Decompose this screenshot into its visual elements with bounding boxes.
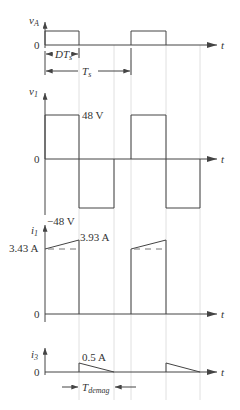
duty-label: DTs [54,48,72,62]
v1-high-label: 48 V [82,109,104,121]
plot-v1: v1 0 t 48 V −48 V [29,85,225,227]
demag-label: Tdemag [82,381,109,395]
v1-waveform [45,115,200,208]
i3-zero-label: 0 [34,366,40,378]
plot-i3: i3 0 t 0.5 A Tdemag [31,348,225,395]
i3-waveform [79,363,200,372]
plot-vA: vA 0 t DTs Ts [29,14,225,79]
timing-diagram: vA 0 t DTs Ts v1 0 t 48 V −48 V [0,0,240,410]
period-label: Ts [82,65,91,79]
vA-waveform [45,31,166,45]
vA-zero-label: 0 [34,39,40,51]
v1-ylabel: v1 [29,85,38,99]
i1-peak-label: 3.93 A [80,231,109,243]
i1-start-label: 3.43 A [9,242,38,254]
v1-t-label: t [221,153,225,165]
plot-i1: i1 0 t 3.43 A 3.93 A [9,224,225,322]
waveform-svg: vA 0 t DTs Ts v1 0 t 48 V −48 V [0,0,240,410]
i3-peak-label: 0.5 A [82,351,106,363]
i1-waveform [45,240,166,314]
vA-t-label: t [221,39,225,51]
v1-zero-label: 0 [34,153,40,165]
i3-ylabel: i3 [31,348,38,362]
i3-t-label: t [221,366,225,378]
time-guides [79,45,200,400]
v1-low-label: −48 V [47,215,75,227]
vA-ylabel: vA [29,14,39,28]
i1-t-label: t [221,308,225,320]
i1-zero-label: 0 [34,308,40,320]
i1-ylabel: i1 [31,224,38,238]
